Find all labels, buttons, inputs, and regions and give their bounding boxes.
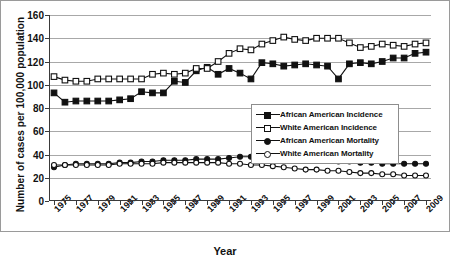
data-point xyxy=(281,165,286,170)
data-point xyxy=(423,40,429,46)
data-point xyxy=(237,70,243,76)
data-point xyxy=(117,76,123,82)
data-point xyxy=(391,172,396,177)
data-point xyxy=(390,55,396,61)
data-point xyxy=(379,41,385,47)
y-tick-mark xyxy=(45,201,49,202)
data-point xyxy=(347,40,353,46)
data-point xyxy=(106,76,112,82)
data-point xyxy=(401,44,407,50)
x-tick-mark xyxy=(284,201,285,205)
y-tick-label: 100 xyxy=(27,79,44,90)
data-point xyxy=(314,167,319,172)
data-point xyxy=(216,160,221,165)
chart-figure: Number of cases per 100,000 population 0… xyxy=(0,0,450,267)
data-point xyxy=(128,161,133,166)
data-point xyxy=(402,161,407,166)
x-tick-mark xyxy=(196,201,197,205)
data-point xyxy=(51,74,57,80)
x-tick-mark xyxy=(262,201,263,205)
data-point xyxy=(73,98,79,104)
x-tick-mark xyxy=(328,201,329,205)
data-point xyxy=(281,34,287,40)
data-point xyxy=(227,161,232,166)
x-tick-mark xyxy=(371,201,372,205)
data-point xyxy=(380,172,385,177)
data-point xyxy=(52,162,57,167)
data-point xyxy=(379,59,385,65)
data-point xyxy=(259,41,265,47)
data-point xyxy=(215,59,221,65)
legend-item: White American Mortality xyxy=(256,147,394,160)
data-point xyxy=(424,161,429,166)
data-point xyxy=(358,45,364,51)
data-point xyxy=(117,161,122,166)
data-point xyxy=(292,166,297,171)
data-point xyxy=(51,90,57,96)
data-point xyxy=(227,155,232,160)
data-point xyxy=(412,41,418,47)
data-point xyxy=(303,167,308,172)
data-point xyxy=(161,160,166,165)
y-tick-label: 20 xyxy=(33,172,44,183)
data-point xyxy=(172,71,178,77)
y-axis-title: Number of cases per 100,000 population xyxy=(15,10,26,220)
data-point xyxy=(248,76,254,82)
data-point xyxy=(84,98,90,104)
data-point xyxy=(226,51,232,57)
x-tick-mark xyxy=(393,201,394,205)
data-point xyxy=(172,78,178,84)
x-tick-mark xyxy=(349,201,350,205)
data-point xyxy=(161,90,167,96)
y-tick-label: 140 xyxy=(27,33,44,44)
data-point xyxy=(139,89,145,95)
data-point xyxy=(106,98,112,104)
x-tick-mark xyxy=(152,201,153,205)
data-point xyxy=(292,62,298,68)
legend-item: African American Incidence xyxy=(256,108,394,121)
x-tick-mark xyxy=(65,201,66,205)
x-tick-mark xyxy=(218,201,219,205)
legend-item-label: African American Incidence xyxy=(280,110,382,119)
data-point xyxy=(336,76,342,82)
data-point xyxy=(73,162,78,167)
data-point xyxy=(73,78,79,84)
y-tick-label: 160 xyxy=(27,10,44,21)
open-circle-icon xyxy=(256,148,280,159)
legend-item-label: African American Mortality xyxy=(280,136,379,145)
data-point xyxy=(325,168,330,173)
data-point xyxy=(238,161,243,166)
data-point xyxy=(215,71,221,77)
data-point xyxy=(84,78,90,84)
data-point xyxy=(336,35,342,41)
data-point xyxy=(84,162,89,167)
data-point xyxy=(401,55,407,61)
data-point xyxy=(95,162,100,167)
data-point xyxy=(139,161,144,166)
data-point xyxy=(172,160,177,165)
data-point xyxy=(128,96,134,102)
data-point xyxy=(314,62,320,68)
x-tick-mark xyxy=(306,201,307,205)
data-point xyxy=(106,162,111,167)
data-point xyxy=(150,161,155,166)
data-point xyxy=(281,63,287,69)
data-point xyxy=(62,99,68,105)
data-point xyxy=(292,37,298,43)
data-point xyxy=(150,90,156,96)
data-point xyxy=(193,66,199,72)
filled-circle-icon xyxy=(256,135,280,146)
data-point xyxy=(238,154,243,159)
data-point xyxy=(62,162,67,167)
x-tick-mark xyxy=(109,201,110,205)
data-point xyxy=(303,38,309,44)
data-point xyxy=(150,71,156,77)
chart-frame: Number of cases per 100,000 population 0… xyxy=(0,0,450,232)
data-point xyxy=(270,61,276,67)
data-point xyxy=(390,42,396,48)
data-point xyxy=(259,60,265,66)
y-tick-label: 120 xyxy=(27,56,44,67)
data-point xyxy=(248,47,254,53)
data-point xyxy=(325,63,331,69)
data-point xyxy=(413,173,418,178)
